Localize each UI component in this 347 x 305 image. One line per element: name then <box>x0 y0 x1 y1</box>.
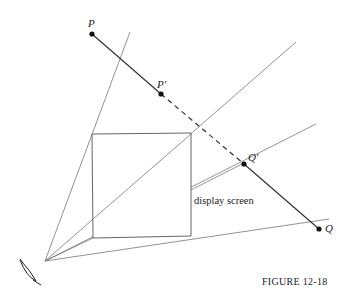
segment-p-pprime <box>92 34 161 94</box>
display-screen <box>92 133 191 238</box>
point-q <box>316 226 321 231</box>
label-p: P <box>87 17 95 29</box>
label-q-prime: Q′ <box>248 151 259 163</box>
figure-caption: FIGURE 12-18 <box>262 276 328 287</box>
eye-icon <box>20 259 41 285</box>
ray-q-segment <box>191 163 244 190</box>
screen-label: display screen <box>194 195 255 206</box>
label-q: Q <box>325 222 333 234</box>
point-q-prime <box>241 161 246 166</box>
segment-qprime-q <box>244 164 319 229</box>
point-p-prime <box>158 91 163 96</box>
label-p-prime: P′ <box>156 78 167 90</box>
perspective-projection-diagram: P P′ Q′ Q display screen FIGURE 12-18 <box>0 0 347 305</box>
point-p <box>89 31 94 36</box>
